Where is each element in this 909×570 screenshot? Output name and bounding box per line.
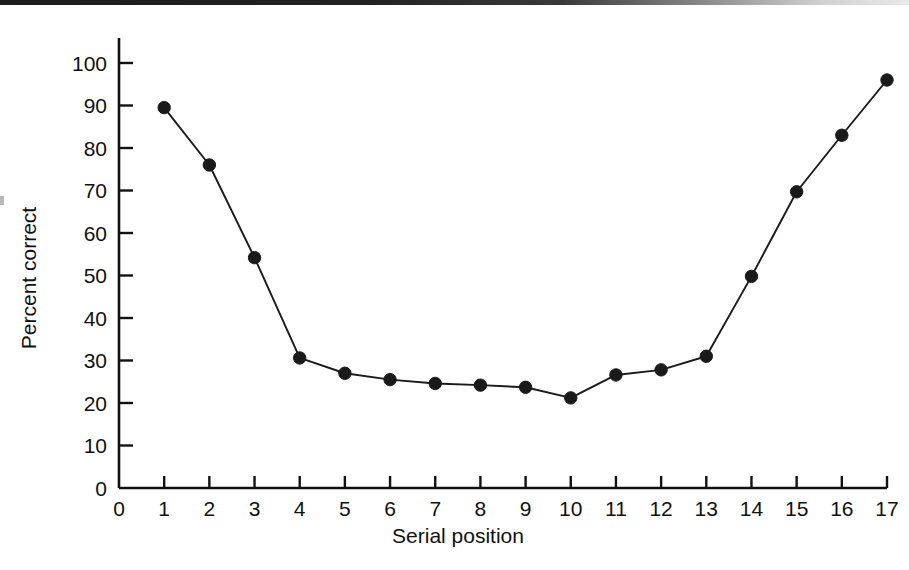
svg-text:11: 11 — [605, 497, 627, 520]
svg-text:0: 0 — [95, 477, 107, 500]
svg-text:14: 14 — [740, 497, 764, 520]
svg-text:80: 80 — [84, 137, 107, 160]
svg-text:1: 1 — [158, 497, 170, 520]
svg-text:9: 9 — [520, 497, 532, 520]
svg-text:70: 70 — [84, 179, 107, 202]
svg-text:90: 90 — [84, 94, 107, 117]
svg-text:20: 20 — [84, 392, 107, 415]
svg-text:10: 10 — [84, 434, 107, 457]
y-axis-ticks — [119, 63, 133, 446]
x-axis-tick-labels: 01234567891011121314151617 — [113, 497, 899, 520]
svg-text:6: 6 — [384, 497, 396, 520]
svg-text:17: 17 — [875, 497, 898, 520]
axes-group — [119, 38, 887, 488]
svg-text:4: 4 — [294, 497, 306, 520]
svg-text:10: 10 — [559, 497, 582, 520]
svg-text:60: 60 — [84, 222, 107, 245]
svg-text:40: 40 — [84, 307, 107, 330]
svg-text:2: 2 — [204, 497, 216, 520]
svg-text:15: 15 — [785, 497, 808, 520]
svg-text:8: 8 — [475, 497, 487, 520]
data-series-line — [164, 80, 887, 398]
svg-text:50: 50 — [84, 264, 107, 287]
svg-text:13: 13 — [695, 497, 718, 520]
serial-position-line-chart: 0102030405060708090100 01234567891011121… — [0, 0, 909, 570]
svg-text:7: 7 — [429, 497, 441, 520]
y-axis-title: Percent correct — [17, 207, 40, 350]
figure-canvas: 0102030405060708090100 01234567891011121… — [0, 0, 909, 570]
svg-text:0: 0 — [113, 497, 125, 520]
y-axis-tick-labels: 0102030405060708090100 — [72, 52, 107, 500]
data-point-markers — [158, 74, 893, 404]
x-axis-ticks — [164, 476, 887, 488]
x-axis-title: Serial position — [392, 524, 524, 547]
svg-text:3: 3 — [249, 497, 261, 520]
svg-text:100: 100 — [72, 52, 107, 75]
svg-text:16: 16 — [830, 497, 853, 520]
svg-text:12: 12 — [649, 497, 672, 520]
svg-text:5: 5 — [339, 497, 351, 520]
svg-text:30: 30 — [84, 349, 107, 372]
